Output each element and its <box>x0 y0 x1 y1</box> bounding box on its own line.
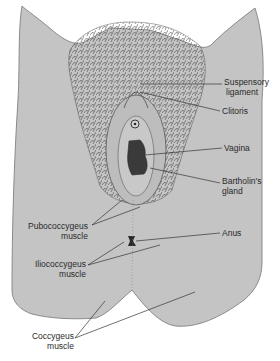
label-text: Suspensory <box>224 77 269 87</box>
label-text: muscle <box>24 231 88 241</box>
label-iliococcygeus-muscle: Iliococcygeus muscle <box>24 259 86 279</box>
urethral-dot <box>134 123 137 126</box>
label-text: Clitoris <box>222 106 248 116</box>
label-text: Coccygeus <box>22 331 74 341</box>
label-text: Iliococcygeus <box>24 259 86 269</box>
label-text: Pubococcygeus <box>24 221 88 231</box>
label-clitoris: Clitoris <box>222 106 248 116</box>
label-text: muscle <box>22 341 74 351</box>
label-vagina: Vagina <box>224 143 250 153</box>
label-text: Vagina <box>224 143 250 153</box>
label-suspensory-ligament: Suspensory ligament <box>224 77 269 97</box>
label-text: Anus <box>222 228 241 238</box>
label-coccygeus-muscle: Coccygeus muscle <box>22 331 74 351</box>
label-text: muscle <box>24 269 86 279</box>
label-text: Bartholin's <box>222 176 261 186</box>
label-anus: Anus <box>222 228 241 238</box>
label-pubococcygeus-muscle: Pubococcygeus muscle <box>24 221 88 241</box>
label-text: ligament <box>224 87 269 97</box>
label-bartholins-gland: Bartholin's gland <box>222 176 261 196</box>
label-text: gland <box>222 186 261 196</box>
